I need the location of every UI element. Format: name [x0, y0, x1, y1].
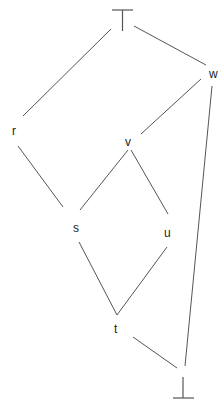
- edge-top-r: [23, 29, 111, 116]
- bottom-symbol-icon: [173, 377, 194, 398]
- node-r: r: [12, 124, 16, 138]
- edge-r-s: [18, 146, 63, 207]
- edge-v-u: [131, 150, 168, 214]
- node-u: u: [164, 226, 171, 240]
- diagram-svg: w r v s u t: [0, 0, 224, 410]
- edge-v-s: [80, 150, 128, 210]
- node-v: v: [125, 135, 131, 149]
- node-s: s: [73, 221, 79, 235]
- hasse-diagram: w r v s u t: [0, 0, 224, 410]
- edge-t-bottom: [133, 337, 177, 368]
- edge-w-v: [141, 79, 201, 134]
- node-w: w: [208, 67, 218, 81]
- edge-top-w: [134, 26, 206, 65]
- top-symbol-icon: [112, 10, 133, 31]
- edges: [18, 26, 212, 368]
- edge-w-bottom: [185, 86, 212, 366]
- edge-u-t: [117, 247, 167, 315]
- node-t: t: [114, 322, 118, 336]
- edge-s-t: [79, 242, 117, 315]
